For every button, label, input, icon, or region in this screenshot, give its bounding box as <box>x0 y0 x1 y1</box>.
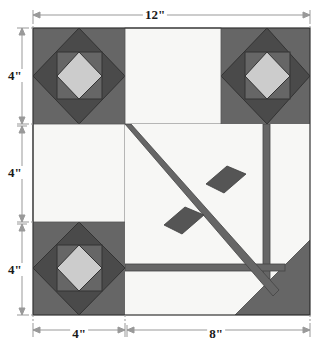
dimension-label-left-top: 4" <box>6 69 24 82</box>
quilt-diagram-svg <box>0 0 323 347</box>
vertical-strip <box>263 124 270 279</box>
dimension-label-left-bottom: 4" <box>6 263 24 276</box>
top-right-corner-block <box>221 28 310 124</box>
bottom-left-corner-block <box>33 222 125 315</box>
dimension-label-bottom-left: 4" <box>70 327 88 340</box>
dimension-label-bottom-right: 8" <box>207 327 225 340</box>
dimension-top <box>33 10 310 28</box>
quilt-block-diagram: 12" 4" 8" 4" 4" 4" <box>0 0 323 347</box>
dimension-label-top: 12" <box>143 8 167 21</box>
top-left-corner-block <box>33 28 125 124</box>
middle-left-white-square <box>33 124 125 222</box>
dimension-label-left-middle: 4" <box>6 166 24 179</box>
top-center-white-square <box>125 28 221 124</box>
center-field <box>125 124 310 315</box>
